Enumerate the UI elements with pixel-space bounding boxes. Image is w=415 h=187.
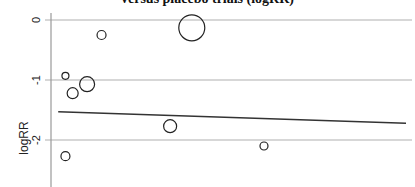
data-point-marker xyxy=(179,15,205,41)
data-point-marker xyxy=(97,31,106,40)
y-tick-label: -2 xyxy=(30,135,42,145)
regression-line xyxy=(58,112,406,123)
y-tick-label: 0 xyxy=(30,17,42,23)
scatter-plot: 0-1-2 logRR xyxy=(0,0,415,187)
data-point-marker xyxy=(80,77,95,92)
data-point-marker xyxy=(61,152,70,161)
y-ticks: 0-1-2 xyxy=(30,17,42,145)
y-tick-label: -1 xyxy=(30,75,42,85)
data-point-marker xyxy=(260,142,268,150)
data-point-marker xyxy=(164,120,177,133)
data-point-marker xyxy=(62,72,69,79)
data-point-marker xyxy=(67,88,78,99)
y-axis-label: logRR xyxy=(17,121,31,155)
data-points xyxy=(61,15,268,161)
